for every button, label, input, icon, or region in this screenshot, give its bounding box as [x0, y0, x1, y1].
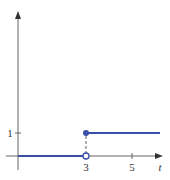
step-function-chart: 3 5 1 t	[0, 0, 170, 180]
filled-point	[83, 130, 89, 136]
x-axis-label: t	[158, 161, 162, 173]
x-tick-label-5: 5	[129, 161, 135, 173]
y-axis-arrow-icon	[15, 11, 21, 19]
x-axis-arrow-icon	[155, 153, 163, 159]
x-tick-label-3: 3	[83, 161, 89, 173]
y-tick-label-1: 1	[7, 127, 13, 139]
open-point	[83, 153, 89, 159]
